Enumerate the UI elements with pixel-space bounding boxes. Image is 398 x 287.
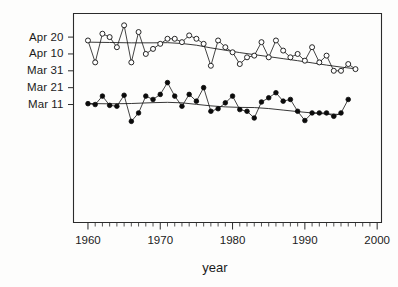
data-point	[353, 67, 358, 72]
data-point	[122, 93, 127, 98]
data-point	[129, 60, 134, 65]
data-point	[331, 68, 336, 73]
data-point	[310, 45, 315, 50]
data-point	[245, 55, 250, 60]
data-point	[346, 97, 351, 102]
data-point	[100, 94, 105, 99]
smoother-line-1	[88, 102, 341, 114]
data-point	[86, 101, 91, 106]
data-point	[107, 35, 112, 40]
y-axis-ticks	[68, 37, 74, 104]
data-point	[144, 94, 149, 99]
data-point	[208, 63, 213, 68]
data-point	[223, 45, 228, 50]
trend-smoother-lines	[88, 42, 356, 114]
data-point	[223, 101, 228, 106]
x-axis-title: year	[202, 260, 228, 275]
data-point	[194, 99, 199, 104]
data-point	[303, 118, 308, 123]
y-tick-label-3: Mar 21	[27, 81, 63, 93]
data-point	[331, 114, 336, 119]
y-tick-label-0: Apr 20	[29, 31, 63, 43]
data-point	[151, 97, 156, 102]
data-point	[136, 111, 141, 116]
data-point	[339, 111, 344, 116]
x-axis-ticks	[88, 223, 377, 230]
data-point	[158, 92, 163, 97]
data-point	[317, 111, 322, 116]
data-point	[201, 85, 206, 90]
data-point	[151, 46, 156, 51]
y-axis-tick-labels: Apr 20Apr 10Mar 31Mar 21Mar 11	[27, 31, 63, 110]
data-point	[165, 36, 170, 41]
data-point	[129, 119, 134, 124]
data-point	[295, 51, 300, 56]
figure-container: Apr 20Apr 10Mar 31Mar 21Mar 11 196019701…	[0, 0, 398, 287]
data-point	[209, 109, 214, 114]
data-point	[252, 53, 257, 58]
x-axis-tick-labels: 19601970198019902000	[75, 234, 390, 246]
data-point	[266, 55, 271, 60]
data-point	[266, 95, 271, 100]
series-line-0	[88, 25, 356, 71]
data-point	[237, 62, 242, 67]
data-point	[288, 97, 293, 102]
data-point	[172, 36, 177, 41]
data-point	[216, 106, 221, 111]
data-point	[302, 58, 307, 63]
y-tick-label-1: Apr 10	[29, 47, 63, 59]
chart-plot: Apr 20Apr 10Mar 31Mar 21Mar 11 196019701…	[0, 0, 398, 287]
x-tick-label-1: 1970	[147, 234, 173, 246]
data-point	[324, 111, 329, 116]
data-point	[259, 100, 264, 105]
data-point	[281, 48, 286, 53]
data-point	[180, 104, 185, 109]
data-point	[230, 94, 235, 99]
data-point	[143, 51, 148, 56]
data-point	[93, 60, 98, 65]
x-tick-label-4: 2000	[364, 234, 390, 246]
data-point	[324, 53, 329, 58]
data-point	[252, 116, 257, 121]
data-point	[100, 31, 105, 36]
data-point	[281, 99, 286, 104]
y-tick-label-2: Mar 31	[27, 64, 63, 76]
data-point	[136, 30, 141, 35]
data-point	[216, 38, 221, 43]
series-line-1	[88, 83, 348, 122]
data-point	[93, 102, 98, 107]
data-point	[237, 107, 242, 112]
data-point	[194, 36, 199, 41]
data-point	[295, 109, 300, 114]
data-point	[165, 80, 170, 85]
data-point	[201, 41, 206, 46]
data-point	[187, 33, 192, 38]
data-point	[259, 40, 264, 45]
data-point	[172, 94, 177, 99]
data-point	[346, 62, 351, 67]
data-point	[107, 103, 112, 108]
data-point	[274, 90, 279, 95]
data-point	[288, 55, 293, 60]
data-point	[115, 104, 120, 109]
data-point	[310, 111, 315, 116]
y-tick-label-4: Mar 11	[28, 98, 64, 110]
data-point	[317, 60, 322, 65]
data-point	[230, 50, 235, 55]
data-point	[245, 109, 250, 114]
data-point	[187, 92, 192, 97]
data-point	[339, 68, 344, 73]
data-point	[158, 41, 163, 46]
data-point	[179, 40, 184, 45]
x-tick-label-0: 1960	[75, 234, 101, 246]
data-point	[114, 45, 119, 50]
x-tick-label-2: 1980	[220, 234, 246, 246]
data-point	[122, 23, 127, 28]
data-point	[85, 38, 90, 43]
x-tick-label-3: 1990	[292, 234, 318, 246]
data-point	[273, 38, 278, 43]
